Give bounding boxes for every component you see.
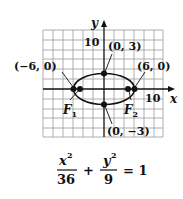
- grid: [43, 30, 163, 137]
- term1-exponent: 2: [67, 150, 73, 160]
- y-axis-label: y: [90, 16, 99, 30]
- label-bottom-vertex: (0, −3): [107, 125, 150, 138]
- label-top-vertex: (0, 3): [108, 40, 141, 53]
- x-axis-label: x: [169, 92, 178, 106]
- term1-denominator: 36: [57, 172, 75, 187]
- x-tick-label: 10: [145, 92, 161, 105]
- term1-numerator: x: [58, 153, 67, 168]
- label-focus-2: F2: [123, 103, 138, 119]
- y-tick-label: 10: [84, 36, 100, 49]
- label-right-vertex: (6, 0): [137, 60, 170, 73]
- equals-one: = 1: [123, 163, 147, 178]
- plus-sign: +: [83, 163, 94, 178]
- term2-exponent: 2: [111, 150, 117, 160]
- ellipse-graph: y x 10 10 (−6, 0) (6, 0) (0, 3) (0, −3) …: [0, 0, 183, 150]
- label-left-vertex: (−6, 0): [14, 60, 57, 73]
- ellipse-equation: x 2 36 + y 2 9 = 1: [0, 148, 183, 199]
- term2-denominator: 9: [104, 172, 113, 187]
- label-focus-1: F1: [62, 103, 77, 119]
